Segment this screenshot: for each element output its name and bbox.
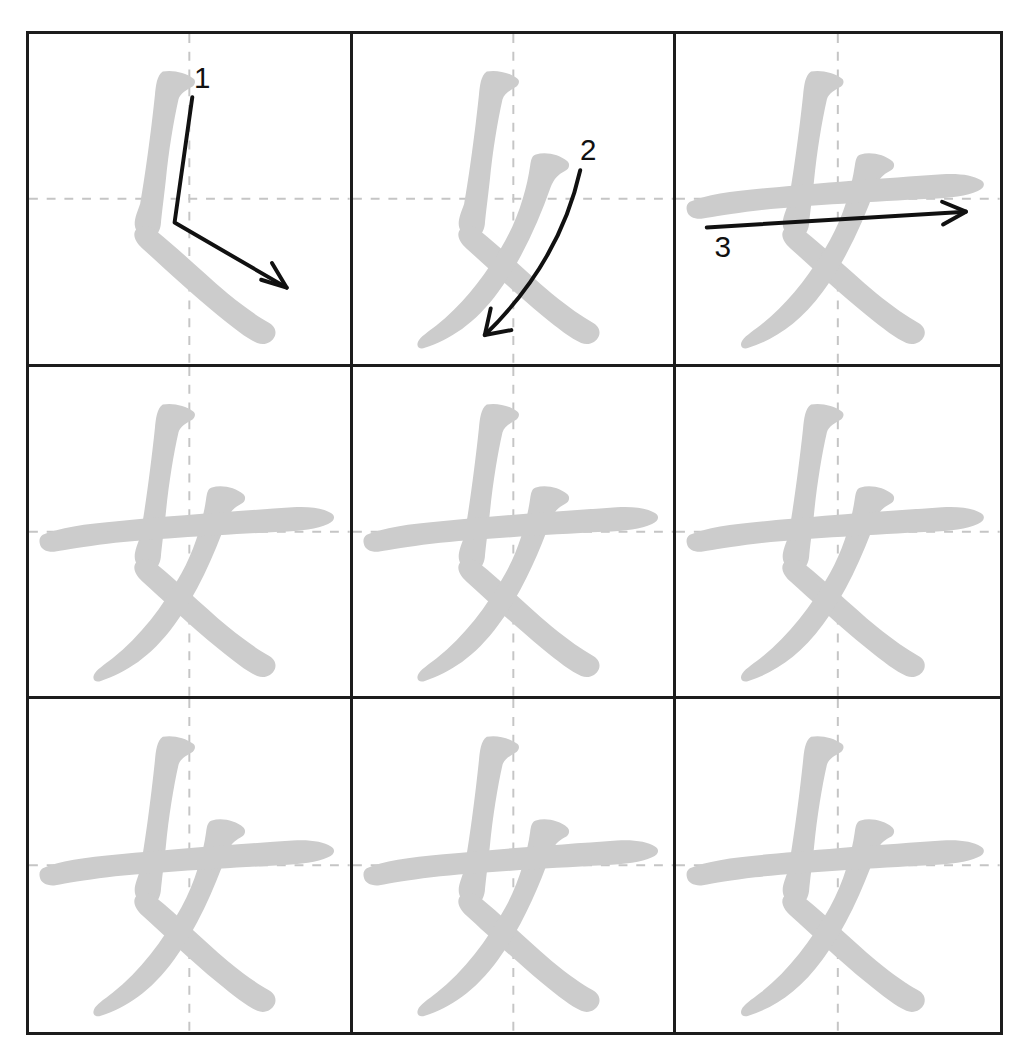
cell-canvas (676, 699, 1000, 1032)
stroke-number-label: 1 (194, 61, 210, 94)
cell-canvas: 1 (29, 34, 350, 364)
cell-canvas (676, 367, 1000, 697)
character-glyph (687, 737, 984, 1017)
stroke-number-label: 3 (715, 230, 732, 263)
character-practice-grid-wrapper: 1 (26, 31, 1003, 1035)
cell-canvas (353, 367, 674, 697)
cell-canvas: 2 (353, 34, 674, 364)
practice-cell[interactable] (29, 699, 353, 1032)
practice-cell[interactable] (353, 367, 677, 700)
cell-canvas (29, 367, 350, 697)
stroke-number-label: 2 (580, 133, 596, 166)
cell-canvas (29, 699, 350, 1032)
character-glyph (363, 404, 658, 682)
character-glyph (687, 404, 984, 682)
worksheet-page: 1 (0, 0, 1028, 1059)
character-glyph (39, 737, 334, 1017)
practice-cell[interactable] (676, 699, 1000, 1032)
practice-cell[interactable]: 3 (676, 34, 1000, 367)
practice-cell[interactable]: 2 (353, 34, 677, 367)
practice-cell[interactable] (29, 367, 353, 700)
character-stroke-1 (134, 71, 275, 344)
character-glyph (39, 404, 334, 682)
stroke-order-arrow-1 (175, 97, 287, 287)
character-glyph (363, 737, 658, 1017)
character-practice-grid: 1 (26, 31, 1003, 1035)
practice-cell[interactable] (353, 699, 677, 1032)
cell-canvas (353, 699, 674, 1032)
cell-canvas: 3 (676, 34, 1000, 364)
practice-cell[interactable]: 1 (29, 34, 353, 367)
practice-cell[interactable] (676, 367, 1000, 700)
